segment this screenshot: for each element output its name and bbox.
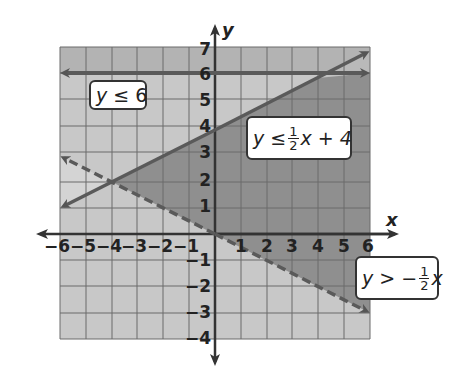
svg-text:4: 4 bbox=[312, 236, 324, 256]
rest-expression: x + 4 bbox=[301, 127, 352, 149]
svg-text:5: 5 bbox=[338, 236, 350, 256]
svg-text:1: 1 bbox=[235, 236, 247, 256]
label-y-le-half-x-plus-4: y ≤ 12 x + 4 bbox=[246, 116, 352, 160]
svg-text:−4: −4 bbox=[185, 328, 211, 348]
svg-text:7: 7 bbox=[199, 39, 211, 59]
svg-text:3: 3 bbox=[199, 142, 211, 162]
svg-text:2: 2 bbox=[261, 236, 273, 256]
var-y: y bbox=[96, 84, 107, 106]
svg-text:−4: −4 bbox=[96, 236, 122, 256]
svg-text:2: 2 bbox=[199, 170, 211, 190]
y-axis-label: y bbox=[222, 19, 235, 40]
svg-text:6: 6 bbox=[199, 64, 211, 84]
svg-text:−2: −2 bbox=[185, 276, 211, 296]
svg-text:−1: −1 bbox=[185, 250, 211, 270]
svg-text:3: 3 bbox=[286, 236, 298, 256]
graph-canvas: −6 −5 −4 −3 −2 −1 1 2 3 4 5 6 7 6 5 4 3 … bbox=[0, 0, 464, 384]
operator: ≤ bbox=[270, 127, 286, 149]
svg-text:−2: −2 bbox=[147, 236, 173, 256]
fraction-one-half: 12 bbox=[419, 265, 429, 292]
svg-text:−3: −3 bbox=[121, 236, 147, 256]
svg-text:6: 6 bbox=[362, 236, 374, 256]
operator: ≤ bbox=[113, 84, 129, 106]
sign: − bbox=[401, 267, 417, 289]
svg-text:1: 1 bbox=[199, 196, 211, 216]
label-y-le-6: y ≤ 6 bbox=[89, 80, 147, 110]
var-y: y bbox=[362, 267, 373, 289]
svg-text:−6: −6 bbox=[44, 236, 70, 256]
svg-text:4: 4 bbox=[199, 116, 211, 136]
operator: > bbox=[379, 267, 395, 289]
var-y: y bbox=[253, 127, 264, 149]
fraction-one-half: 12 bbox=[288, 125, 298, 152]
rhs: 6 bbox=[135, 84, 147, 106]
x-axis-label: x bbox=[385, 209, 399, 230]
svg-text:−5: −5 bbox=[70, 236, 96, 256]
svg-text:5: 5 bbox=[199, 90, 211, 110]
label-y-gt-neg-half-x: y > − 12 x bbox=[355, 256, 439, 300]
svg-text:−3: −3 bbox=[185, 302, 211, 322]
rest-expression: x bbox=[431, 267, 442, 289]
